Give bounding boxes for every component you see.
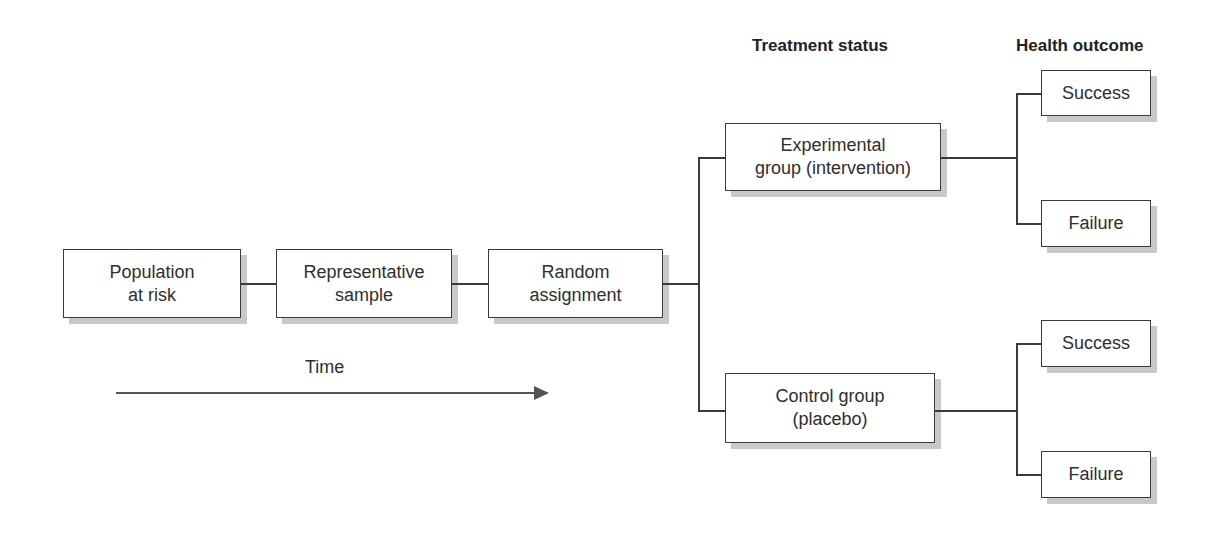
time-arrow-icon xyxy=(0,0,1228,535)
